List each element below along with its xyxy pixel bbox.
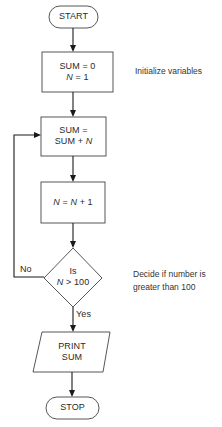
arrowhead-icon xyxy=(70,175,76,182)
yes-edge-label: Yes xyxy=(76,309,91,320)
increment-mid: = xyxy=(60,197,71,207)
decision-annotation: Decide if number is greater than 100 xyxy=(133,268,206,293)
no-edge-label: No xyxy=(20,264,32,275)
var-n: N xyxy=(86,136,93,146)
arrowhead-icon xyxy=(70,241,76,248)
sum-line-1: SUM = xyxy=(41,125,106,136)
init-label: SUM = 0 N = 1 xyxy=(42,61,113,83)
arrowhead-icon xyxy=(70,45,76,52)
stop-label: STOP xyxy=(46,402,99,413)
print-line-1: PRINT xyxy=(36,341,108,352)
increment-rest: + 1 xyxy=(77,197,93,207)
var-n: N xyxy=(66,72,73,82)
sum-line-2: SUM + N xyxy=(41,136,106,147)
print-line-2: SUM xyxy=(36,352,108,363)
decision-line-2: N > 100 xyxy=(44,277,102,288)
sum-line-2-prefix: SUM + xyxy=(55,136,86,146)
arrowhead-icon xyxy=(69,390,75,397)
start-label: START xyxy=(49,11,98,22)
decision-annotation-line-1: Decide if number is xyxy=(133,268,206,281)
init-line-2: N = 1 xyxy=(42,72,113,83)
loop-no-path xyxy=(14,135,44,277)
init-line-2-rest: = 1 xyxy=(73,72,89,82)
decision-line-2-rest: > 100 xyxy=(63,277,89,287)
init-annotation: Initialize variables xyxy=(135,65,202,78)
arrowhead-icon xyxy=(34,132,41,138)
var-n: N xyxy=(53,197,60,207)
print-label: PRINT SUM xyxy=(36,341,108,363)
decision-label: Is N > 100 xyxy=(44,266,102,288)
sum-label: SUM = SUM + N xyxy=(41,125,106,147)
arrowhead-icon xyxy=(70,110,76,117)
init-line-1: SUM = 0 xyxy=(42,61,113,72)
arrowhead-icon xyxy=(70,325,76,332)
decision-line-1: Is xyxy=(44,266,102,277)
increment-label: N = N + 1 xyxy=(41,197,105,208)
decision-annotation-line-2: greater than 100 xyxy=(133,281,206,294)
